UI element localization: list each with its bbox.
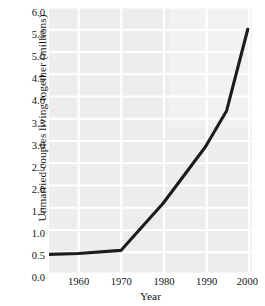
x-axis-title: Year [49,290,252,302]
y-tick-label: 5.0 [0,52,45,62]
y-tick-label: 3.5 [0,119,45,129]
plot-area [49,7,252,274]
x-tick-label: 1990 [184,276,230,288]
y-tick-label: 2.0 [0,185,45,195]
plot-svg [49,7,252,274]
y-tick-label: 1.0 [0,229,45,239]
y-tick-label: 3.0 [0,141,45,151]
unmarried-couples-line-chart: Unmarried couples living together (milli… [0,0,265,306]
y-axis-tick-labels: 6.0 5.5 5.0 4.5 4.0 3.5 3.0 2.5 2.0 1.5 … [0,0,45,306]
y-tick-label: 4.5 [0,74,45,84]
x-tick-label: 2000 [224,276,265,288]
y-tick-label: 4.0 [0,96,45,106]
y-tick-label: 5.5 [0,30,45,40]
y-tick-label: 1.5 [0,207,45,217]
y-tick-label: 2.5 [0,163,45,173]
x-tick-label: 1960 [56,276,102,288]
x-tick-label: 1980 [141,276,187,288]
y-tick-label: 0.5 [0,251,45,261]
y-tick-label: 6.0 [0,8,45,18]
x-tick-label: 1970 [98,276,144,288]
